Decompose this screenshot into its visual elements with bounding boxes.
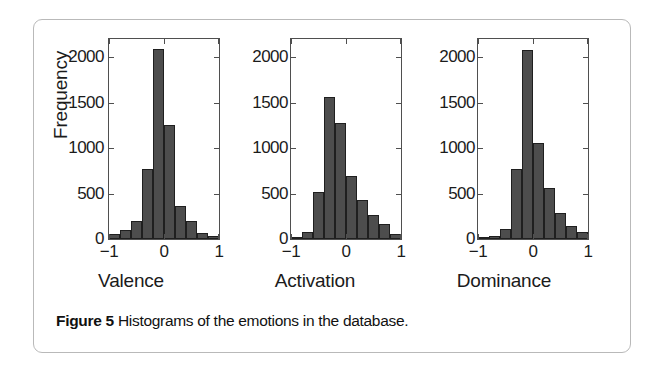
y-tick-mark [478,57,483,58]
y-tick-mark [291,239,296,240]
y-tick-label: 1500 [48,93,104,113]
x-axis-label-valence: Valence [42,270,220,292]
histogram-bar [175,206,186,239]
y-tick-label: 500 [232,184,288,204]
y-tick-mark [109,148,114,149]
x-tick-mark [478,39,479,44]
x-tick-mark [346,39,347,44]
x-tick-label: −1 [282,242,300,262]
caption-text: Histograms of the emotions in the databa… [118,312,408,329]
y-tick-label: 1000 [232,138,288,158]
x-axis-label-activation: Activation [226,270,404,292]
y-tick-label: 0 [48,229,104,249]
y-tick-mark [396,194,401,195]
histogram-bar [555,213,566,239]
y-tick-mark [291,57,296,58]
y-tick-mark [583,57,588,58]
y-tick-label: 0 [419,229,475,249]
histogram-bar [120,230,131,239]
y-tick-label: 1500 [419,93,475,113]
histogram-bar [335,123,346,239]
plot-area-dominance [477,38,589,240]
y-tick-mark [478,148,483,149]
bars-dominance [478,39,588,239]
x-tick-mark [587,39,588,44]
x-tick-mark [400,39,401,44]
y-tick-label: 1000 [419,138,475,158]
y-tick-mark [214,148,219,149]
y-tick-labels-valence: 0500100015002000 [46,20,104,240]
x-tick-mark [109,39,110,44]
x-tick-label: 0 [160,242,169,262]
histogram-bar [500,229,511,239]
histogram-valence: Frequency 0500100015002000 −101 Valence [46,20,224,300]
histogram-bar [197,233,208,239]
y-tick-label: 500 [48,184,104,204]
x-tick-label: 1 [215,242,224,262]
y-tick-label: 2000 [48,47,104,67]
y-tick-mark [396,239,401,240]
y-tick-mark [396,57,401,58]
histogram-row: Frequency 0500100015002000 −101 Valence … [34,20,632,300]
y-tick-label: 0 [232,229,288,249]
x-tick-label: 0 [529,242,538,262]
figure-panel: Frequency 0500100015002000 −101 Valence … [33,19,631,353]
x-tick-labels-activation: −101 [290,242,402,266]
y-tick-labels-activation: 0500100015002000 [230,20,288,240]
y-tick-mark [396,103,401,104]
histogram-bar [324,97,335,239]
y-tick-mark [109,239,114,240]
x-tick-mark [533,39,534,44]
y-tick-mark [214,103,219,104]
histogram-activation: 0500100015002000 −101 Activation [230,20,408,300]
y-tick-mark [478,194,483,195]
y-tick-mark [478,239,483,240]
histogram-bar [153,49,164,239]
y-tick-mark [583,194,588,195]
y-tick-mark [214,239,219,240]
histogram-bar [368,215,379,239]
y-tick-mark [109,103,114,104]
y-tick-mark [214,57,219,58]
histogram-bar [522,50,533,239]
y-tick-label: 1500 [232,93,288,113]
x-tick-mark [164,234,165,239]
x-tick-mark [291,39,292,44]
histogram-bar [357,200,368,239]
x-tick-labels-valence: −101 [108,242,220,266]
x-tick-mark [587,234,588,239]
plot-area-activation [290,38,402,240]
histogram-bar [346,176,357,239]
x-axis-label-dominance: Dominance [415,270,593,292]
x-tick-label: 0 [342,242,351,262]
x-tick-label: −1 [469,242,487,262]
y-tick-mark [478,103,483,104]
x-tick-label: 1 [584,242,593,262]
histogram-bar [489,236,500,239]
y-tick-mark [583,103,588,104]
histogram-bar [544,188,555,239]
histogram-dominance: 0500100015002000 −101 Dominance [417,20,595,300]
histogram-bar [131,221,142,239]
y-tick-label: 2000 [419,47,475,67]
y-tick-mark [396,148,401,149]
bars-valence [109,39,219,239]
x-tick-mark [533,234,534,239]
y-tick-labels-dominance: 0500100015002000 [417,20,475,240]
figure-caption: Figure 5 Histograms of the emotions in t… [56,312,616,330]
y-tick-label: 500 [419,184,475,204]
histogram-bar [142,169,153,239]
y-tick-mark [109,57,114,58]
x-tick-mark [478,234,479,239]
histogram-bar [379,224,390,239]
y-tick-mark [291,194,296,195]
histogram-bar [186,221,197,239]
y-tick-mark [291,148,296,149]
y-tick-mark [583,148,588,149]
y-tick-mark [583,239,588,240]
y-tick-mark [291,103,296,104]
histogram-bar [533,143,544,239]
plot-area-valence [108,38,220,240]
x-tick-labels-dominance: −101 [477,242,589,266]
bars-activation [291,39,401,239]
